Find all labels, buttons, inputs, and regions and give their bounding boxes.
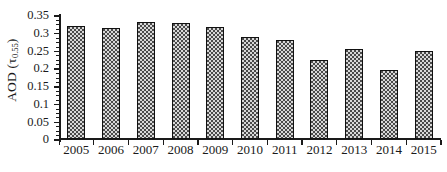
y-axis-title: AOD (τ0.55) <box>0 0 26 140</box>
bar-2008 <box>172 23 190 139</box>
x-tick-label: 2006 <box>98 143 124 156</box>
x-tick-label: 2014 <box>376 143 402 156</box>
x-tick-label: 2012 <box>306 143 332 156</box>
x-tick-label: 2010 <box>237 143 263 156</box>
bar-2006 <box>102 28 120 139</box>
tau-subscript: 0.55 <box>11 43 21 58</box>
y-tick-label: 0.25 <box>27 44 49 57</box>
bar-2007 <box>137 22 155 139</box>
x-tick-label: 2009 <box>202 143 228 156</box>
y-tick-label: 0.3 <box>33 27 49 40</box>
x-tick-label: 2015 <box>411 143 437 156</box>
bar-chart: AOD (τ0.55) 00.050.10.150.20.250.30.35 2… <box>0 0 447 172</box>
x-tick-label: 2008 <box>168 143 194 156</box>
y-tick-label: 0.05 <box>27 115 49 128</box>
y-tick-label: 0.15 <box>27 80 49 93</box>
bar-2009 <box>206 27 224 139</box>
x-tick-label: 2013 <box>341 143 367 156</box>
plot-area: 00.050.10.150.20.250.30.35 <box>59 16 441 140</box>
bar-2013 <box>345 49 363 139</box>
bar-2015 <box>415 51 433 139</box>
y-tick-label: 0.1 <box>33 97 49 110</box>
bar-2012 <box>310 60 328 139</box>
bar-2014 <box>380 70 398 139</box>
y-axis-title-text: AOD ( <box>5 64 20 102</box>
x-tick-label: 2007 <box>133 143 159 156</box>
bars-layer <box>59 16 441 140</box>
bar-2011 <box>276 40 294 139</box>
bar-2005 <box>67 26 85 139</box>
x-tick-label: 2011 <box>272 143 298 156</box>
x-axis-labels: 2005200620072008200920102011201220132014… <box>59 143 441 165</box>
y-tick-label: 0.35 <box>27 9 49 22</box>
bar-2010 <box>241 37 259 139</box>
y-tick-label: 0 <box>43 133 49 146</box>
y-axis-title-close: ) <box>5 38 20 43</box>
x-tick-label: 2005 <box>63 143 89 156</box>
y-tick-label: 0.2 <box>33 62 49 75</box>
tau-symbol: τ <box>5 58 20 64</box>
